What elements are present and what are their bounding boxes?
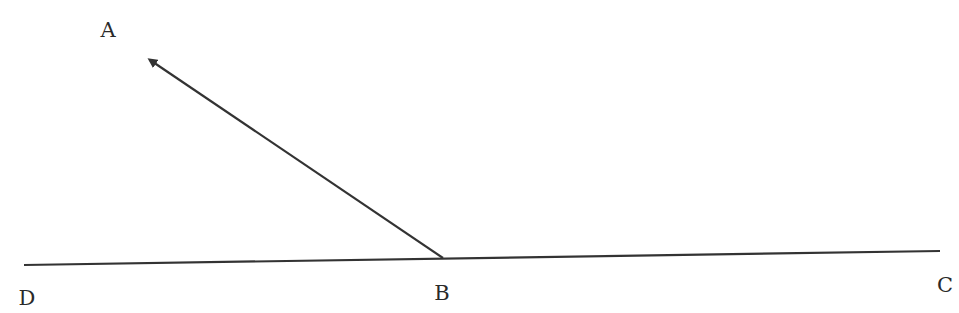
line-dc bbox=[24, 251, 940, 265]
point-label-b: B bbox=[434, 283, 449, 304]
point-label-c: C bbox=[937, 275, 953, 296]
ray-ba bbox=[150, 60, 443, 258]
point-label-a: A bbox=[100, 20, 115, 41]
point-label-d: D bbox=[19, 288, 36, 309]
geometry-diagram bbox=[0, 0, 959, 313]
